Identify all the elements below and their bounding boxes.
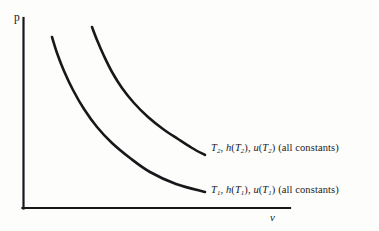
pv-diagram-svg: [0, 0, 379, 231]
label-t2-h-arg: T: [235, 142, 241, 153]
label-t1-subscript: 1: [217, 189, 221, 196]
y-axis-label: p: [14, 12, 20, 24]
axes-group: [23, 18, 291, 209]
label-t2-constants: (all constants): [278, 142, 339, 153]
label-t1-h-arg-sub: 1: [241, 189, 245, 196]
label-t1-h-arg: T: [235, 184, 241, 195]
figure-container: p v T2, h(T2), u(T2) (all constants) T1,…: [0, 0, 379, 231]
label-t2-h-arg-sub: 2: [241, 147, 245, 154]
label-t1-u-arg-sub: 1: [268, 189, 272, 196]
isotherm-curve-t1: [52, 37, 205, 192]
isotherm-curve-t2: [92, 27, 205, 155]
label-t2-subscript: 2: [217, 147, 221, 154]
label-t1-constants: (all constants): [278, 184, 339, 195]
label-t2-u-arg-sub: 2: [268, 147, 272, 154]
curve-label-t2: T2, h(T2), u(T2) (all constants): [211, 143, 339, 154]
x-axis-label: v: [270, 212, 275, 223]
curves-group: [52, 27, 205, 192]
curve-label-t1: T1, h(T1), u(T1) (all constants): [211, 185, 339, 196]
